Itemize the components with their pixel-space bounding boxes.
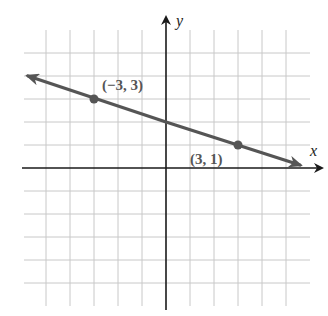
coordinate-plane: x y (−3, 3) (3, 1) xyxy=(0,0,328,316)
point-label-neg3-3: (−3, 3) xyxy=(102,77,143,94)
line-arrow-right xyxy=(166,122,300,165)
point-label-3-1: (3, 1) xyxy=(190,151,223,168)
y-axis-label: y xyxy=(174,12,184,30)
point-3-1 xyxy=(234,141,243,150)
x-axis-label: x xyxy=(309,142,317,159)
point-neg3-3 xyxy=(90,95,99,104)
